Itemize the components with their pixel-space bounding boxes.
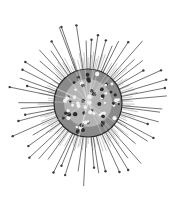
radiolarian-illustration — [0, 0, 173, 200]
lattice-shell — [54, 69, 122, 137]
